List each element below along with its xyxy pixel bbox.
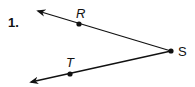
label-R: R bbox=[76, 6, 85, 21]
label-T: T bbox=[66, 55, 75, 70]
ray-ST bbox=[31, 51, 171, 82]
problem-number: 1. bbox=[8, 15, 19, 30]
angle-diagram: 1. R T S bbox=[0, 0, 195, 87]
vertex-S bbox=[168, 48, 173, 53]
point-R bbox=[76, 21, 81, 26]
label-S: S bbox=[178, 44, 187, 59]
point-T bbox=[67, 71, 72, 76]
ray-SR bbox=[38, 11, 171, 51]
